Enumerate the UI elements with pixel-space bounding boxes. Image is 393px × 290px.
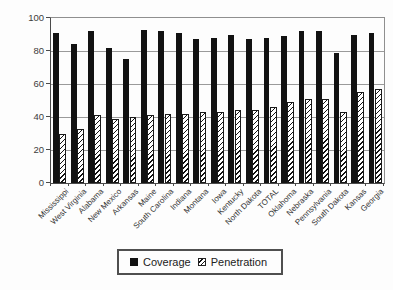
penetration-bar-Arkansas xyxy=(130,117,137,183)
x-tick xyxy=(243,183,244,186)
coverage-bar-Kansas xyxy=(351,35,357,184)
coverage-bar-Pennsylvania xyxy=(316,31,322,183)
x-tick xyxy=(190,183,191,186)
x-tick xyxy=(173,183,174,186)
coverage-bar-South Dakota xyxy=(334,53,340,183)
x-tick xyxy=(138,183,139,186)
x-tick xyxy=(278,183,279,186)
legend-label-penetration: Penetration xyxy=(211,256,267,268)
y-tick-80 xyxy=(46,50,50,51)
x-tick xyxy=(120,183,121,186)
y-tick-label: 100 xyxy=(14,12,44,23)
x-tick xyxy=(85,183,86,186)
x-tick xyxy=(260,183,261,186)
plot-area xyxy=(50,17,385,184)
penetration-bar-Georgia xyxy=(375,89,382,183)
penetration-bar-North Dakota xyxy=(252,110,259,183)
penetration-bar-Oklahoma xyxy=(287,102,294,183)
penetration-bar-Kentucky xyxy=(235,110,242,183)
coverage-bar-Alabama xyxy=(88,31,94,183)
bar-chart: 020406080100 MississippiWest VirginiaAla… xyxy=(0,0,393,290)
penetration-bar-New Mexico xyxy=(112,119,119,183)
coverage-bar-TOTAL xyxy=(264,38,270,183)
coverage-swatch-icon xyxy=(130,258,138,266)
y-tick-40 xyxy=(46,116,50,117)
penetration-bar-South Dakota xyxy=(340,112,347,183)
penetration-bar-Iowa xyxy=(217,112,224,183)
penetration-bar-TOTAL xyxy=(270,107,277,183)
y-tick-label: 40 xyxy=(14,111,44,122)
y-tick-label: 80 xyxy=(14,45,44,56)
legend-item-penetration: Penetration xyxy=(198,256,267,268)
coverage-bar-Montana xyxy=(193,39,199,183)
penetration-bar-West Virginia xyxy=(77,129,84,183)
x-tick xyxy=(348,183,349,186)
coverage-bar-Kentucky xyxy=(228,35,234,184)
penetration-swatch-icon xyxy=(198,258,206,266)
y-tick-60 xyxy=(46,83,50,84)
x-tick xyxy=(225,183,226,186)
coverage-bar-Mississippi xyxy=(53,33,59,183)
x-tick xyxy=(295,183,296,186)
x-tick xyxy=(208,183,209,186)
y-tick-label: 60 xyxy=(14,78,44,89)
coverage-bar-Indiana xyxy=(176,33,182,183)
penetration-bar-Montana xyxy=(200,112,207,183)
coverage-bar-North Dakota xyxy=(246,39,252,183)
coverage-bar-South Carolina xyxy=(158,31,164,183)
legend-label-coverage: Coverage xyxy=(143,256,191,268)
coverage-bar-West Virginia xyxy=(71,44,77,183)
penetration-bar-Alabama xyxy=(94,115,101,183)
y-tick-label: 20 xyxy=(14,144,44,155)
coverage-bar-Oklahoma xyxy=(281,36,287,183)
penetration-bar-Pennsylvania xyxy=(322,99,329,183)
coverage-bar-Nebraska xyxy=(299,31,305,183)
coverage-bar-Iowa xyxy=(211,38,217,183)
coverage-bar-Arkansas xyxy=(123,59,129,183)
y-tick-100 xyxy=(46,17,50,18)
penetration-bar-South Carolina xyxy=(165,114,172,183)
x-tick xyxy=(155,183,156,186)
coverage-bar-New Mexico xyxy=(106,48,112,183)
y-tick-20 xyxy=(46,149,50,150)
coverage-bar-Georgia xyxy=(369,33,375,183)
penetration-bar-Maine xyxy=(147,115,154,183)
y-tick-label: 0 xyxy=(14,177,44,188)
penetration-bar-Kansas xyxy=(357,92,364,183)
penetration-bar-Indiana xyxy=(182,114,189,183)
x-tick xyxy=(103,183,104,186)
x-tick xyxy=(365,183,366,186)
penetration-bar-Mississippi xyxy=(59,134,66,184)
x-tick xyxy=(330,183,331,186)
legend: Coverage Penetration xyxy=(117,249,283,275)
legend-item-coverage: Coverage xyxy=(130,256,191,268)
coverage-bar-Maine xyxy=(141,30,147,183)
x-tick xyxy=(68,183,69,186)
penetration-bar-Nebraska xyxy=(305,99,312,183)
x-tick xyxy=(313,183,314,186)
x-tick xyxy=(383,183,384,186)
x-tick xyxy=(50,183,51,186)
